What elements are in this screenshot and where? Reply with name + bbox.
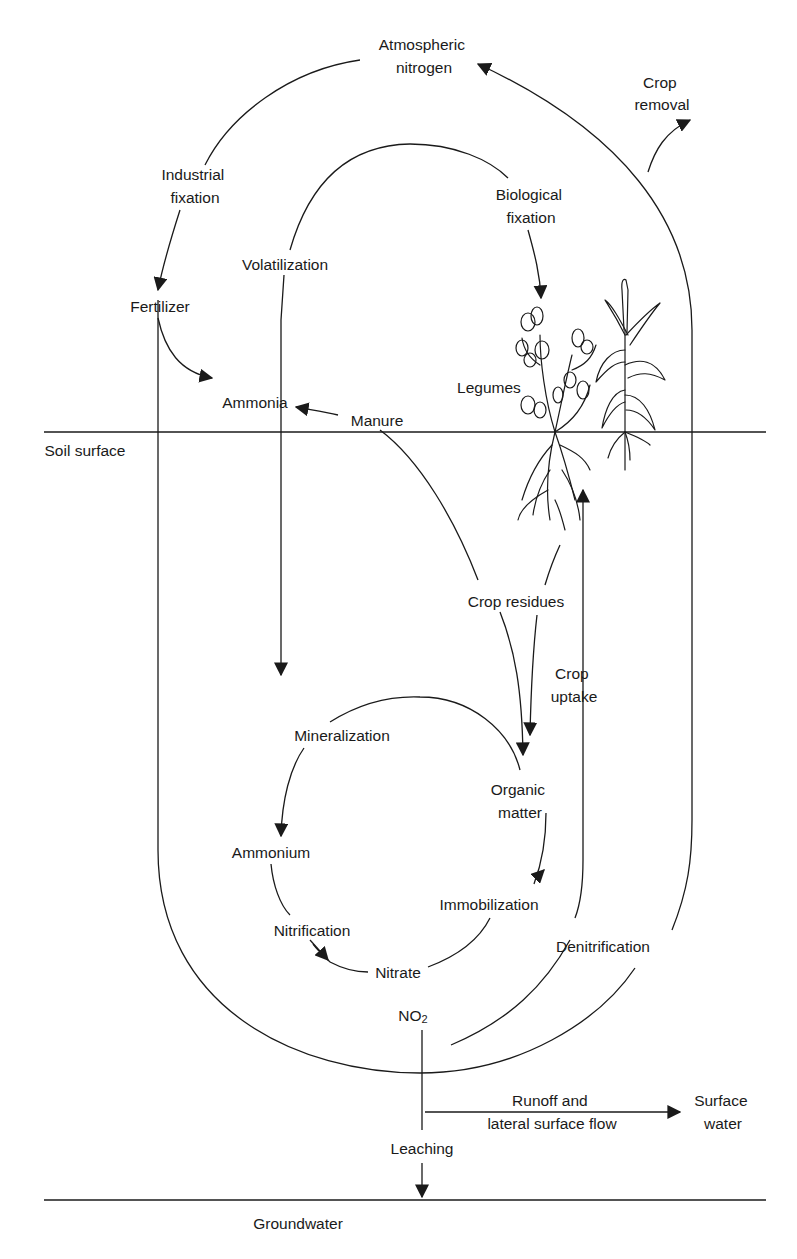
volatilization-label: Volatilization xyxy=(242,256,328,273)
crop-residues-to-organic-matter-arrow-2 xyxy=(530,615,537,735)
mineralization-label: Mineralization xyxy=(294,727,390,744)
nitrate-arc xyxy=(330,962,368,972)
manure-to-ammonia-arrow xyxy=(296,407,338,415)
ammonium-label: Ammonium xyxy=(232,844,310,861)
immobilization-label: Immobilization xyxy=(439,896,538,913)
crop-removal-arrow xyxy=(648,120,690,172)
biological-fixation-arrow xyxy=(528,230,541,298)
atmospheric-nitrogen-label: Atmospheric nitrogen xyxy=(379,36,469,76)
corn-plant-icon xyxy=(596,279,665,470)
ammonia-label: Ammonia xyxy=(222,394,288,411)
legumes-label: Legumes xyxy=(457,379,521,396)
no2-label: NO2 xyxy=(398,1007,427,1025)
volatilization-line xyxy=(281,275,284,675)
legume-residues-line xyxy=(545,545,560,585)
soil-surface-label: Soil surface xyxy=(45,442,126,459)
biological-fixation-label: Biological fixation xyxy=(496,186,567,226)
immobilization-line-lower xyxy=(428,918,490,967)
industrial-fixation-label: Industrial fixation xyxy=(161,166,228,206)
industrial-fixation-arc-upper xyxy=(205,60,360,165)
manure-to-organic-matter-line xyxy=(380,430,478,580)
crop-uptake-label: Crop uptake xyxy=(551,665,598,705)
crop-residues-to-organic-matter-arrow-1 xyxy=(500,612,523,755)
denitrification-label: Denitrification xyxy=(556,938,650,955)
nitrate-label: Nitrate xyxy=(375,964,421,981)
fertilizer-to-ammonia-arrow xyxy=(158,318,212,378)
surface-water-label: Surface water xyxy=(694,1092,752,1132)
nitrification-label: Nitrification xyxy=(274,922,351,939)
industrial-fixation-arc-lower xyxy=(158,210,180,290)
mineralization-arc-lower xyxy=(281,748,304,836)
nitrification-arrowhead-line xyxy=(310,940,328,960)
fertilizer-label: Fertilizer xyxy=(130,298,189,315)
organic-matter-label: Organic matter xyxy=(491,781,550,821)
nitrogen-cycle-diagram: Atmospheric nitrogen Crop removal Indust… xyxy=(0,0,797,1259)
legume-plant-icon xyxy=(516,307,596,530)
manure-label: Manure xyxy=(351,412,404,429)
denitrification-line-lower xyxy=(420,968,635,1073)
volatilization-biological-arch xyxy=(290,144,508,250)
ammonium-to-nitrification-line xyxy=(271,864,290,915)
crop-removal-label: Crop removal xyxy=(634,74,689,113)
crop-residues-label: Crop residues xyxy=(468,593,565,610)
leaching-label: Leaching xyxy=(391,1140,454,1157)
groundwater-label: Groundwater xyxy=(253,1215,343,1232)
crop-uptake-line-lower xyxy=(451,940,570,1045)
